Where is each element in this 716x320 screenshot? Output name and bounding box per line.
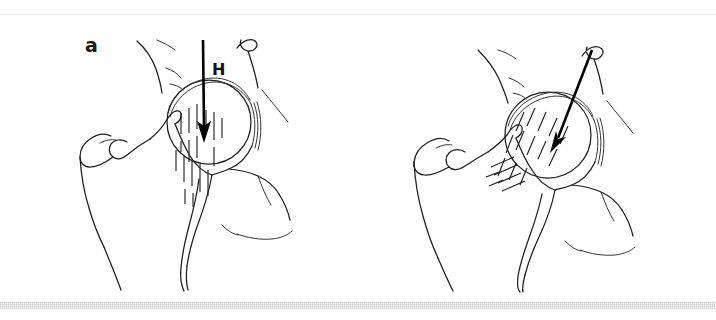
hip-drawing-a [0,0,358,320]
panel-label-a: a [85,36,98,55]
figure-root: a H [0,0,716,320]
panel-b: b H [358,0,716,320]
hip-drawing-b [358,0,716,320]
trabecular-lines-b-cross [486,157,525,191]
panel-a: a H [0,0,358,320]
force-arrow-b [550,50,592,153]
force-arrow-a [197,40,211,143]
force-label-a: H [212,62,225,78]
